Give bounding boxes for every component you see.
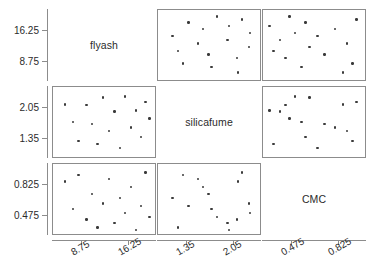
data-point [346,42,348,44]
data-point [64,180,66,182]
data-point [113,110,115,112]
data-point [130,126,132,128]
data-point [85,104,87,106]
data-point [284,104,286,106]
data-point [108,130,110,132]
y-tick-mark [42,138,47,139]
y-tick-label-flyash: 8.75 [0,55,39,66]
data-point [288,117,290,119]
data-point [171,35,173,37]
data-point [207,193,209,195]
data-point [85,218,87,220]
data-point [124,212,126,214]
data-point [202,186,204,188]
data-point [316,147,318,149]
data-point [210,208,212,210]
y-tick-mark [42,61,47,62]
scatter-panel-cmc-vs-flyash [52,163,156,235]
y-tick-mark [42,184,47,185]
data-point [135,229,137,231]
y-tick-label-cmc: 0.475 [0,209,39,220]
y-axis-spine-silicafume [47,86,48,158]
data-point [304,21,306,23]
data-point [96,143,98,145]
x-tick-label-flyash: 8.75 [69,238,91,257]
data-point [64,103,66,105]
data-point [236,57,238,59]
data-point [216,216,218,218]
data-point [135,109,137,111]
data-point [77,174,79,176]
data-point [241,171,243,173]
variable-label-silicafume: silicafume [185,116,233,128]
data-point [148,117,150,119]
x-tick-label-flyash: 16.25 [116,235,143,257]
data-point [148,216,150,218]
data-point [249,212,251,214]
data-point [355,101,357,103]
data-point [124,95,126,97]
y-tick-label-silicafume: 1.35 [0,132,39,143]
data-point [228,229,230,231]
data-point [182,174,184,176]
x-tick-label-silicafume: 2.05 [221,238,243,257]
y-tick-mark [42,30,47,31]
data-point [77,140,79,142]
data-point [226,222,228,224]
data-point [144,171,146,173]
y-tick-mark [42,215,47,216]
data-point [342,103,344,105]
data-point [268,25,270,27]
scatter-panel-silicafume-vs-cmc [262,86,366,158]
data-point [351,62,353,64]
data-point [177,50,179,52]
data-point [226,39,228,41]
data-point [279,39,281,41]
data-point [119,197,121,199]
data-point [91,123,93,125]
data-point [237,71,239,73]
data-point [323,53,325,55]
data-point [342,71,344,73]
data-point [279,110,281,112]
data-point [316,35,318,37]
data-point [187,205,189,207]
data-point [249,32,251,34]
scatter-panel-flyash-vs-cmc [262,9,366,81]
data-point [346,130,348,132]
data-point [300,121,302,123]
scatter-panel-cmc-vs-silicafume [157,163,261,235]
data-point [197,42,199,44]
data-point [102,96,104,98]
y-tick-label-flyash: 16.25 [0,24,39,35]
diagonal-panel-cmc: CMC [262,163,366,235]
data-point [140,136,142,138]
data-point [113,222,115,224]
diagonal-panel-silicafume: silicafume [157,86,261,158]
data-point [197,178,199,180]
data-point [216,15,218,17]
data-point [241,18,243,20]
y-tick-label-cmc: 0.825 [0,178,39,189]
data-point [182,62,184,64]
data-point [294,95,296,97]
data-point [171,197,173,199]
y-axis-spine-cmc [47,163,48,235]
data-point [102,202,104,204]
data-point [96,226,98,228]
data-point [72,121,74,123]
x-axis-spine-silicafume [157,240,261,241]
data-point [119,147,121,149]
data-point [210,66,212,68]
data-point [334,126,336,128]
data-point [207,53,209,55]
x-tick-label-silicafume: 1.35 [174,238,196,257]
scatter-panel-silicafume-vs-flyash [52,86,156,158]
data-point [268,109,270,111]
data-point [144,101,146,103]
data-point [351,140,353,142]
x-tick-label-cmc: 0.825 [326,235,353,257]
data-point [272,50,274,52]
data-point [237,180,239,182]
scatter-panel-flyash-vs-silicafume [157,9,261,81]
